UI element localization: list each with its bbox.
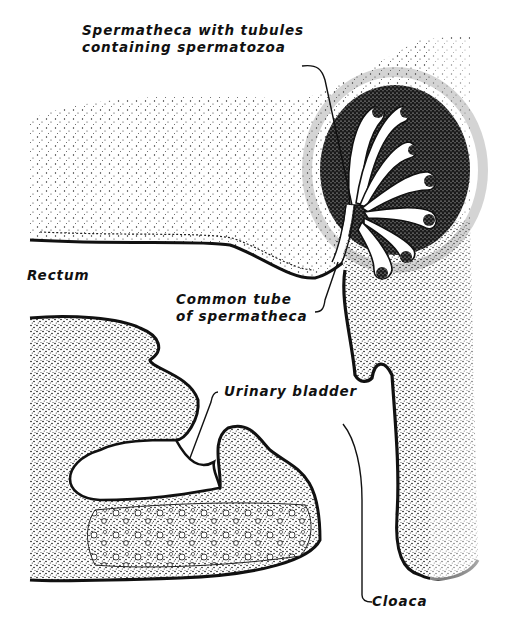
label-common-tube-line1: Common tube: [176, 291, 307, 308]
label-spermatheca-line1: Spermatheca with tubules: [82, 22, 304, 39]
label-common-tube-line2: of spermatheca: [176, 308, 307, 325]
label-rectum: Rectum: [27, 267, 89, 284]
label-rectum-text: Rectum: [27, 267, 89, 284]
label-cloaca-text: Cloaca: [372, 593, 427, 610]
ventral-tissue: [30, 316, 320, 580]
label-urinary-bladder-text: Urinary bladder: [224, 383, 357, 400]
leader-cloaca: [343, 424, 372, 602]
label-common-tube: Common tube of spermatheca: [176, 291, 307, 325]
label-urinary-bladder: Urinary bladder: [224, 383, 357, 400]
label-spermatheca: Spermatheca with tubules containing sper…: [82, 22, 304, 56]
label-cloaca: Cloaca: [372, 593, 427, 610]
label-spermatheca-line2: containing spermatozoa: [82, 39, 304, 56]
